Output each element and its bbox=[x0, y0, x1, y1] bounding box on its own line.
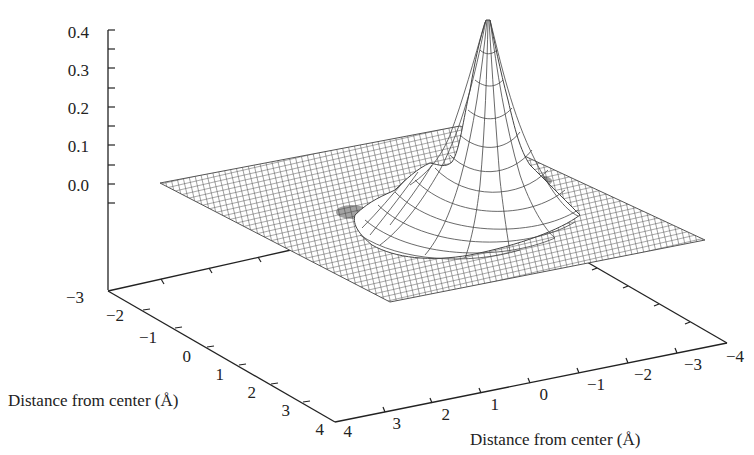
bottom-floor-axis bbox=[335, 343, 727, 422]
z-axis bbox=[108, 30, 115, 290]
bottom-tick-m4: −4 bbox=[726, 347, 745, 366]
z-tick-0.1: 0.1 bbox=[68, 137, 89, 156]
z-tick-0.0: 0.0 bbox=[68, 176, 89, 195]
bottom-tick-m1: −1 bbox=[587, 375, 605, 394]
bottom-tick-4: 4 bbox=[344, 422, 353, 441]
bottom-axis-title: Distance from center (Å) bbox=[470, 430, 640, 449]
left-tick-0: 0 bbox=[183, 347, 192, 366]
back-floor-axis bbox=[108, 248, 300, 291]
left-tick-1: 1 bbox=[216, 365, 225, 384]
surface-mesh bbox=[160, 20, 705, 302]
bottom-tick-3: 3 bbox=[393, 414, 402, 433]
left-tick-4: 4 bbox=[316, 420, 325, 439]
z-tick-0.4: 0.4 bbox=[68, 23, 90, 42]
left-tick-m2: −2 bbox=[106, 306, 124, 325]
surface-plot: 0.4 0.3 0.2 0.1 0.0 −3 −2 −1 0 1 2 3 4 D… bbox=[0, 0, 754, 455]
bottom-tick-2: 2 bbox=[442, 405, 451, 424]
left-tick-2: 2 bbox=[248, 383, 257, 402]
bottom-tick-0: 0 bbox=[540, 385, 549, 404]
left-tick-3: 3 bbox=[282, 401, 291, 420]
z-tick-0.2: 0.2 bbox=[68, 99, 89, 118]
right-floor-axis bbox=[580, 258, 727, 343]
bottom-tick-1: 1 bbox=[491, 395, 500, 414]
left-tick-m1: −1 bbox=[139, 328, 157, 347]
bottom-tick-m3: −3 bbox=[684, 355, 702, 374]
left-axis-title: Distance from center (Å) bbox=[8, 391, 178, 410]
z-tick-0.3: 0.3 bbox=[68, 61, 89, 80]
corner-tick: −3 bbox=[66, 288, 84, 307]
bottom-tick-m2: −2 bbox=[634, 365, 652, 384]
